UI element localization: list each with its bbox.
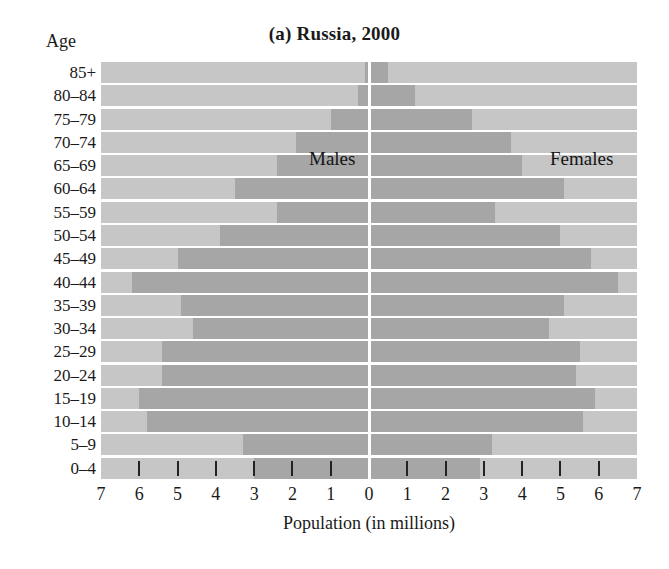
y-axis-tick-label: 25–29 bbox=[4, 341, 96, 362]
y-axis-tick-label: 35–39 bbox=[4, 295, 96, 316]
bar-male bbox=[132, 272, 369, 293]
x-axis-tick-label: 4 bbox=[507, 484, 537, 505]
x-axis-tick-mark bbox=[483, 461, 485, 476]
x-axis-tick-label: 0 bbox=[354, 484, 384, 505]
x-axis-tick-label: 4 bbox=[201, 484, 231, 505]
x-axis-tick-mark bbox=[598, 461, 600, 476]
bar-male bbox=[139, 388, 369, 409]
x-axis-tick-mark bbox=[330, 461, 332, 476]
x-axis-tick-label: 5 bbox=[163, 484, 193, 505]
bar-male bbox=[178, 248, 369, 269]
bar-female bbox=[369, 155, 522, 176]
y-axis-tick-label: 40–44 bbox=[4, 272, 96, 293]
bar-male bbox=[277, 202, 369, 223]
bar-male bbox=[193, 318, 369, 339]
bar-female bbox=[369, 62, 388, 83]
bar-male bbox=[331, 109, 369, 130]
x-axis-tick-label: 6 bbox=[584, 484, 614, 505]
population-pyramid-figure: (a) Russia, 2000 Age 85+80–8475–7970–746… bbox=[0, 0, 669, 569]
y-axis-tick-label: 0–4 bbox=[4, 458, 96, 479]
y-axis-tick-label: 80–84 bbox=[4, 85, 96, 106]
zero-axis-line bbox=[368, 62, 371, 481]
y-axis-tick-label: 55–59 bbox=[4, 202, 96, 223]
x-axis-tick-label: 2 bbox=[431, 484, 461, 505]
bar-female bbox=[369, 388, 595, 409]
bar-female bbox=[369, 132, 511, 153]
x-axis-tick-mark bbox=[521, 461, 523, 476]
x-axis-tick-mark bbox=[177, 461, 179, 476]
x-axis-tick-mark bbox=[291, 461, 293, 476]
bar-male bbox=[235, 178, 369, 199]
x-axis-tick-mark bbox=[253, 461, 255, 476]
x-axis-tick-label: 1 bbox=[316, 484, 346, 505]
x-axis-tick-label: 6 bbox=[124, 484, 154, 505]
y-axis-tick-label: 15–19 bbox=[4, 388, 96, 409]
bar-female bbox=[369, 318, 549, 339]
bar-female bbox=[369, 365, 576, 386]
bar-female bbox=[369, 178, 564, 199]
y-axis-tick-label: 45–49 bbox=[4, 248, 96, 269]
y-axis-tick-labels: 85+80–8475–7970–7465–6960–6455–5950–5445… bbox=[0, 62, 96, 481]
x-axis-tick-mark bbox=[559, 461, 561, 476]
x-axis-tick-marks bbox=[101, 458, 637, 479]
bar-female bbox=[369, 295, 564, 316]
x-axis-tick-labels: 765432101234567 bbox=[101, 484, 637, 510]
x-axis-tick-mark bbox=[406, 461, 408, 476]
bar-female bbox=[369, 272, 618, 293]
y-axis-tick-label: 30–34 bbox=[4, 318, 96, 339]
x-axis-tick-label: 7 bbox=[622, 484, 652, 505]
bar-male bbox=[220, 225, 369, 246]
bar-female bbox=[369, 202, 495, 223]
y-axis-tick-label: 50–54 bbox=[4, 225, 96, 246]
y-axis-tick-label: 85+ bbox=[4, 62, 96, 83]
bar-male bbox=[181, 295, 369, 316]
chart-title-text: (a) Russia, 2000 bbox=[269, 23, 400, 44]
y-axis-tick-label: 70–74 bbox=[4, 132, 96, 153]
bar-male bbox=[162, 365, 369, 386]
x-axis-tick-mark bbox=[138, 461, 140, 476]
x-axis-tick-label: 3 bbox=[239, 484, 269, 505]
x-axis-title: Population (in millions) bbox=[101, 513, 637, 534]
series-label-females: Females bbox=[550, 148, 613, 170]
y-axis-tick-label: 10–14 bbox=[4, 411, 96, 432]
chart-title: (a) Russia, 2000 bbox=[0, 23, 669, 45]
bar-male bbox=[147, 411, 369, 432]
y-axis-title: Age bbox=[46, 31, 76, 52]
x-axis-tick-label: 1 bbox=[392, 484, 422, 505]
bar-male bbox=[243, 434, 369, 455]
bar-female bbox=[369, 341, 580, 362]
y-axis-tick-label: 75–79 bbox=[4, 109, 96, 130]
x-axis-tick-label: 2 bbox=[277, 484, 307, 505]
plot-area: Males Females bbox=[101, 62, 637, 481]
x-axis-tick-label: 5 bbox=[545, 484, 575, 505]
y-axis-tick-label: 60–64 bbox=[4, 178, 96, 199]
x-axis-tick-label: 7 bbox=[86, 484, 116, 505]
bar-female bbox=[369, 85, 415, 106]
x-axis-tick-mark bbox=[215, 461, 217, 476]
bar-female bbox=[369, 434, 492, 455]
bar-female bbox=[369, 248, 591, 269]
bar-female bbox=[369, 411, 583, 432]
y-axis-tick-label: 65–69 bbox=[4, 155, 96, 176]
bar-female bbox=[369, 109, 472, 130]
x-axis-tick-mark bbox=[445, 461, 447, 476]
series-label-males: Males bbox=[309, 148, 355, 170]
y-axis-tick-label: 20–24 bbox=[4, 365, 96, 386]
bar-male bbox=[162, 341, 369, 362]
y-axis-tick-label: 5–9 bbox=[4, 434, 96, 455]
x-axis-tick-label: 3 bbox=[469, 484, 499, 505]
bar-female bbox=[369, 225, 560, 246]
